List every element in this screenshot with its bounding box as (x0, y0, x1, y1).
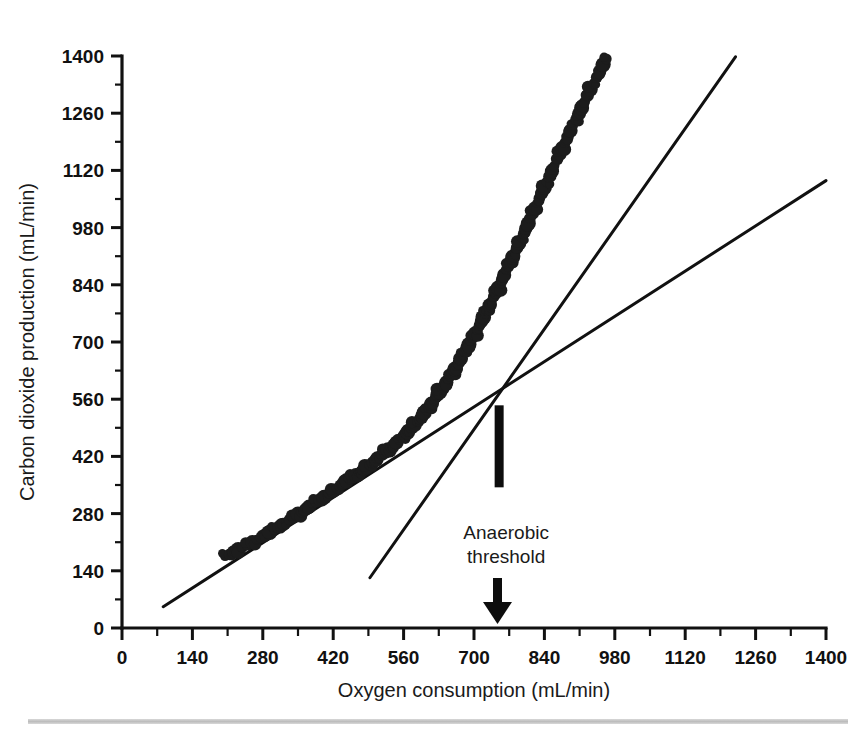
bottom-rule-divider (28, 719, 848, 724)
x-tick-label: 0 (117, 647, 128, 668)
x-tick-label: 980 (599, 647, 631, 668)
annotation-line-1: Anaerobic (463, 522, 549, 543)
x-tick-label: 840 (529, 647, 561, 668)
threshold-marker-bar (495, 405, 504, 487)
data-point (599, 53, 608, 62)
y-tick-label: 840 (72, 275, 104, 296)
y-tick-label: 0 (93, 618, 104, 639)
threshold-down-arrow-icon (483, 578, 512, 624)
x-axis-title: Oxygen consumption (mL/min) (338, 679, 610, 701)
y-tick-label: 700 (72, 332, 104, 353)
x-tick-label: 1400 (805, 647, 847, 668)
y-tick-label: 280 (72, 504, 104, 525)
x-tick-label: 1120 (665, 647, 706, 668)
annotation-line-2: threshold (467, 546, 545, 567)
x-tick-label: 420 (317, 647, 349, 668)
x-tick-label: 700 (458, 647, 490, 668)
y-tick-label: 1260 (62, 103, 104, 124)
y-axis-title: Carbon dioxide production (mL/min) (16, 183, 38, 501)
x-tick-label: 280 (247, 647, 279, 668)
y-tick-label: 560 (72, 389, 104, 410)
anaerobic-threshold-annotation: Anaerobic threshold (463, 405, 549, 624)
figure-container: 0140280420560700840980112012601400 01402… (0, 0, 866, 734)
x-tick-label: 560 (388, 647, 420, 668)
y-tick-label: 980 (72, 218, 104, 239)
scatter-chart: 0140280420560700840980112012601400 01402… (0, 0, 866, 734)
x-tick-label: 1260 (734, 647, 776, 668)
data-point-group (218, 53, 612, 562)
y-tick-label: 420 (72, 446, 104, 467)
y-tick-label: 1120 (63, 160, 104, 181)
y-tick-label: 1400 (62, 46, 104, 67)
x-tick-label: 140 (177, 647, 209, 668)
anaerobic-slope-line (370, 57, 736, 578)
x-tick-group: 0140280420560700840980112012601400 (117, 628, 847, 668)
y-tick-label: 140 (72, 561, 104, 582)
y-tick-group: 0140280420560700840980112012601400 (62, 46, 122, 639)
